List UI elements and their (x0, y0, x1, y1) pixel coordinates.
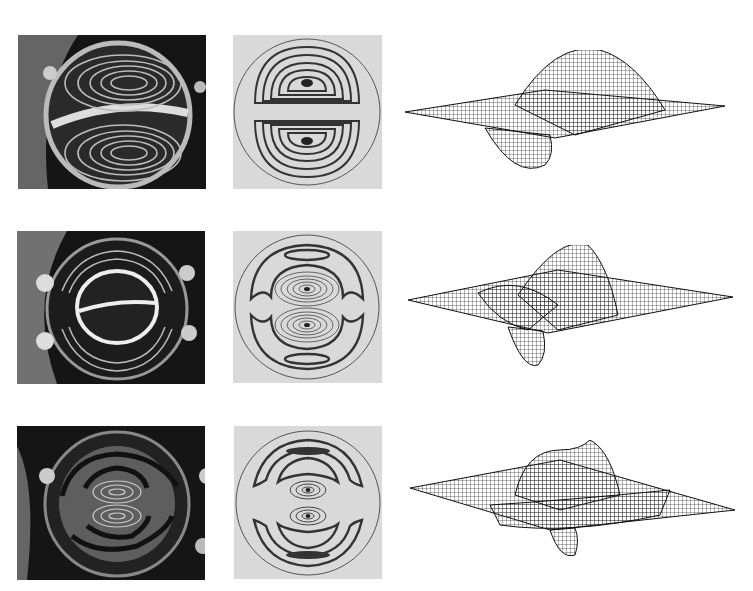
interferogram-image (17, 426, 205, 580)
interferogram-photo-mode-2 (17, 231, 205, 384)
fringe-pattern-mode-2 (233, 231, 382, 383)
fringe-image (234, 426, 382, 579)
mode-shape-mesh-3 (410, 440, 740, 560)
interferogram-photo-mode-1 (18, 35, 206, 189)
interferogram-photo-mode-3 (17, 426, 205, 580)
interferogram-image (17, 231, 205, 384)
interferogram-image (18, 35, 206, 189)
mesh-surface (408, 245, 738, 370)
mode-shape-mesh-2 (408, 245, 738, 370)
mesh-surface (410, 440, 740, 560)
fringe-pattern-mode-1 (233, 35, 382, 189)
fringe-image (233, 35, 382, 189)
mesh-surface (405, 50, 735, 175)
mode-shape-mesh-1 (405, 50, 735, 175)
fringe-image (233, 231, 382, 383)
fringe-pattern-mode-3 (234, 426, 382, 579)
